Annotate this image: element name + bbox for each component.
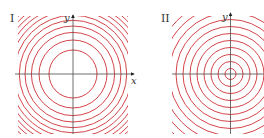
contour-lines-I <box>0 0 156 138</box>
plot-I: I y x <box>0 0 156 138</box>
contour-figure: I y x II y <box>0 0 264 138</box>
y-axis-label-II: y <box>221 11 228 22</box>
contour-circle <box>155 0 264 138</box>
plot-label-I: I <box>10 12 14 25</box>
y-axis-label-I: y <box>63 12 70 23</box>
plot-label-II: II <box>161 12 170 25</box>
plot-II: II y <box>148 0 264 138</box>
x-axis-label-I: x <box>131 75 137 86</box>
